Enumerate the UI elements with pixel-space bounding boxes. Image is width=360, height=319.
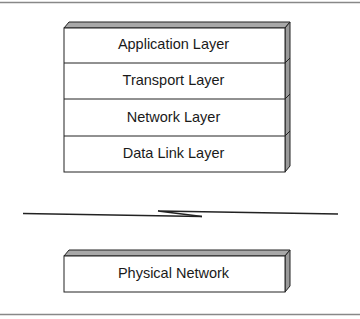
layer-network: Network Layer: [64, 109, 283, 125]
layer-application: Application Layer: [64, 36, 283, 52]
layer-data-link: Data Link Layer: [64, 145, 283, 161]
link-line: [23, 211, 338, 217]
layer-transport: Transport Layer: [64, 72, 283, 88]
physical-network-label: Physical Network: [64, 265, 283, 281]
